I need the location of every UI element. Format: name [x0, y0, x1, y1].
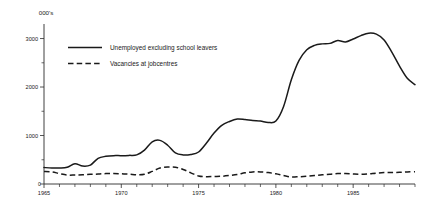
x-axis-tick-labels: 19651970197519801985	[38, 190, 360, 196]
unemployment-vacancies-line-chart: 100020003000 000's 19651970197519801985 …	[0, 0, 440, 209]
x-tick-label: 1975	[192, 190, 204, 196]
y-tick-label: 1000	[26, 133, 38, 139]
x-tick-label: 1970	[115, 190, 127, 196]
y-axis-ticks	[40, 39, 44, 184]
x-axis-ticks	[44, 184, 415, 188]
y-axis-unit-label: 000's	[39, 9, 54, 16]
y-tick-label: 2000	[26, 84, 38, 90]
x-axis-group: 19651970197519801985 0	[38, 181, 415, 196]
origin-zero-label: 0	[38, 181, 41, 187]
x-tick-label: 1980	[270, 190, 282, 196]
data-series-group	[44, 33, 415, 177]
series-unemployed-excluding-school-leavers	[44, 33, 415, 168]
x-tick-label: 1965	[38, 190, 50, 196]
y-axis-tick-labels: 100020003000	[26, 36, 38, 139]
x-tick-label: 1985	[347, 190, 359, 196]
legend-label-unemployed: Unemployed excluding school leavers	[110, 44, 217, 52]
legend: Unemployed excluding school leavers Vaca…	[68, 44, 217, 68]
y-axis-group: 100020003000 000's	[26, 9, 54, 184]
y-tick-label: 3000	[26, 36, 38, 42]
series-vacancies-at-jobcentres	[44, 167, 415, 177]
chart-plot-area: 100020003000 000's 19651970197519801985 …	[0, 0, 440, 209]
legend-label-vacancies: Vacancies at jobcentres	[110, 60, 177, 68]
